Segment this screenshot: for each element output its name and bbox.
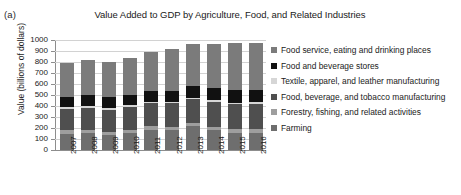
bar-segment <box>123 95 137 105</box>
y-tick-mark <box>51 62 55 63</box>
x-tick-label: 2011 <box>154 137 162 154</box>
legend-label: Textile, apparel, and leather manufactur… <box>281 76 439 86</box>
bar-segment <box>144 52 158 92</box>
y-tick-mark <box>51 139 55 140</box>
plot-area <box>55 40 266 150</box>
x-tick-label: 2014 <box>218 136 226 154</box>
bar-segment <box>228 90 242 102</box>
y-tick-mark <box>51 150 55 151</box>
x-tick-label: 2015 <box>239 136 247 154</box>
bar-segment <box>207 44 221 89</box>
y-tick-mark <box>51 117 55 118</box>
bar-segment <box>144 103 158 126</box>
bar-segment <box>81 108 95 130</box>
legend-item[interactable]: Textile, apparel, and leather manufactur… <box>271 76 461 92</box>
bar-segment <box>249 104 263 130</box>
legend: Food service, eating and drinking places… <box>271 45 461 138</box>
legend-swatch-icon <box>271 78 277 84</box>
bar-segment <box>102 97 116 108</box>
bar-segment <box>81 60 95 95</box>
bar-segment <box>60 109 74 130</box>
y-tick-label: 200 <box>20 124 48 132</box>
y-tick-mark <box>51 40 55 41</box>
y-tick-label: 300 <box>20 113 48 121</box>
bar-segment <box>60 97 74 107</box>
bar-segment <box>123 107 137 130</box>
bar-segment <box>165 91 179 102</box>
x-tick-label: 2013 <box>197 136 205 154</box>
x-tick-label: 2008 <box>91 136 99 154</box>
bar-segment <box>81 95 95 106</box>
x-tick-label: 2010 <box>133 136 141 154</box>
y-tick-label: 1000 <box>20 36 48 44</box>
bar-segment <box>165 103 179 127</box>
x-tick-label: 2007 <box>70 136 78 154</box>
bar-segment <box>102 62 116 97</box>
y-tick-mark <box>51 51 55 52</box>
bar-segment <box>249 43 263 90</box>
bar-segment <box>60 63 74 97</box>
legend-label: Food, beverage, and tobacco manufacturin… <box>281 92 445 102</box>
bar-segment <box>123 58 137 95</box>
bar-segment <box>186 44 200 86</box>
y-tick-label: 700 <box>20 69 48 77</box>
bar-segment <box>207 88 221 100</box>
y-tick-label: 900 <box>20 47 48 55</box>
figure: (a) Value Added to GDP by Agriculture, F… <box>0 0 461 195</box>
y-tick-label: 600 <box>20 80 48 88</box>
x-tick-label: 2016 <box>260 136 268 154</box>
legend-swatch-icon <box>271 63 277 69</box>
bar-2012[interactable] <box>165 49 179 150</box>
bar-segment <box>165 49 179 91</box>
bar-2011[interactable] <box>144 52 158 150</box>
legend-label: Food service, eating and drinking places <box>281 45 431 55</box>
x-tick-label: 2009 <box>112 136 120 154</box>
y-tick-mark <box>51 84 55 85</box>
y-tick-label: 400 <box>20 102 48 110</box>
legend-swatch-icon <box>271 47 277 53</box>
legend-swatch-icon <box>271 109 277 115</box>
legend-item[interactable]: Food and beverage stores <box>271 61 461 77</box>
y-tick-label: 0 <box>20 146 48 154</box>
legend-item[interactable]: Food service, eating and drinking places <box>271 45 461 61</box>
y-tick-mark <box>51 95 55 96</box>
bar-group <box>55 40 266 150</box>
bar-segment <box>228 43 242 90</box>
bar-segment <box>144 91 158 101</box>
y-tick-mark <box>51 73 55 74</box>
legend-label: Food and beverage stores <box>281 61 379 71</box>
y-tick-mark <box>51 128 55 129</box>
chart-title: Value Added to GDP by Agriculture, Food,… <box>60 9 400 20</box>
bar-segment <box>228 104 242 129</box>
bar-segment <box>186 99 200 123</box>
legend-item[interactable]: Forestry, fishing, and related activitie… <box>271 107 461 123</box>
bar-2015[interactable] <box>228 43 242 150</box>
legend-item[interactable]: Food, beverage, and tobacco manufacturin… <box>271 92 461 108</box>
legend-label: Farming <box>281 123 312 133</box>
x-tick-label: 2012 <box>176 136 184 154</box>
legend-item[interactable]: Farming <box>271 123 461 139</box>
bar-2014[interactable] <box>207 44 221 150</box>
y-tick-mark <box>51 106 55 107</box>
y-tick-label: 100 <box>20 135 48 143</box>
legend-swatch-icon <box>271 125 277 131</box>
legend-swatch-icon <box>271 94 277 100</box>
bar-2013[interactable] <box>186 44 200 150</box>
y-tick-label: 800 <box>20 58 48 66</box>
legend-label: Forestry, fishing, and related activitie… <box>281 107 421 117</box>
bar-segment <box>102 110 116 132</box>
panel-label: (a) <box>4 9 16 20</box>
bar-segment <box>207 102 221 127</box>
bar-segment <box>186 86 200 97</box>
y-tick-label: 500 <box>20 91 48 99</box>
bar-segment <box>249 90 263 102</box>
bar-2016[interactable] <box>249 43 263 150</box>
